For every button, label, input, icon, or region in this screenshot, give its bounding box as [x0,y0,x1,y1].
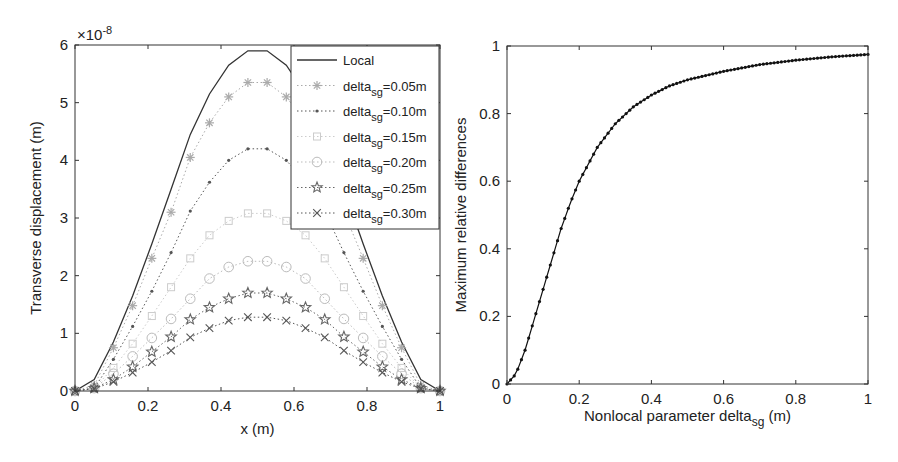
x-axis-label-main: Nonlocal parameter delta [584,407,752,424]
dot-marker-icon [592,153,595,156]
dot-marker-icon [606,132,609,135]
dot-marker-icon [798,58,801,61]
dot-marker-icon [773,61,776,64]
dot-marker-icon [783,60,786,63]
y-tick-label: 0.2 [479,307,500,324]
y-tick-label: 0.4 [479,240,500,257]
dot-marker-icon [635,103,638,106]
dot-marker-icon [661,88,664,91]
y-tick-label: 6 [60,36,68,53]
dot-marker-icon [852,54,855,57]
legend-label-main: delta [343,130,372,145]
dot-marker-icon [848,54,851,57]
square-marker-icon [302,232,309,239]
dot-marker-icon [588,159,591,162]
dot-marker-icon [700,75,703,78]
star-marker-icon [262,288,272,298]
dot-marker-icon [265,147,268,150]
dot-marker-icon [708,73,711,76]
circle-marker-icon [339,314,349,324]
circle-marker-icon [147,333,157,343]
dot-marker-icon [189,209,192,212]
dot-marker-icon [794,59,797,62]
dot-marker-icon [809,57,812,60]
x-tick-label: 0.8 [785,390,806,407]
square-marker-icon [360,313,367,320]
star-marker-icon [243,288,253,298]
square-marker-icon [206,232,213,239]
y-tick-label: 0.6 [479,172,500,189]
dot-marker-icon [650,93,653,96]
y-tick-label: 0 [60,382,68,399]
dot-marker-icon [625,112,628,115]
dot-marker-icon [856,54,859,57]
circle-marker-icon [358,333,368,343]
dot-marker-icon [704,74,707,77]
dot-marker-icon [715,71,718,74]
dot-marker-icon [801,58,804,61]
dot-marker-icon [534,312,537,315]
legend-label-suffix: =0.25m [383,181,427,196]
square-marker-icon [168,284,175,291]
dot-marker-icon [610,127,613,130]
x-tick-label: 0.6 [284,397,305,414]
dot-marker-icon [690,77,693,80]
dot-marker-icon [729,68,732,71]
circle-marker-icon [301,274,311,284]
dot-marker-icon [523,349,526,352]
legend-label-main: delta [343,104,372,119]
dot-marker-icon [574,188,577,191]
legend-label-sub: sg [371,188,383,200]
dot-marker-icon [513,374,516,377]
x-tick-label: 1 [864,390,872,407]
square-marker-icon [110,364,117,371]
dot-marker-icon [362,290,365,293]
circle-marker-icon [205,274,215,284]
x-tick-label: 0 [71,397,79,414]
dot-marker-icon [664,86,667,89]
square-marker-icon [225,217,232,224]
dot-marker-icon [776,61,779,64]
dot-marker-icon [841,55,844,58]
dot-marker-icon [682,79,685,82]
x-tick-label: 0.2 [569,390,590,407]
y-tick-label: 0 [492,375,500,392]
dot-marker-icon [722,70,725,73]
x-tick-label: 0.4 [211,397,232,414]
legend-label-0: Local [343,53,374,68]
y-tick-label: 0.8 [479,105,500,122]
dot-marker-icon [570,197,573,200]
dot-marker-icon [246,147,249,150]
legend-label-main: delta [343,181,372,196]
dot-marker-icon [686,78,689,81]
y-tick-label: 1 [60,324,68,341]
dot-marker-icon [819,56,822,59]
circle-marker-icon [166,314,176,324]
dot-marker-icon [603,136,606,139]
x-axis-label-sub: sg [752,415,765,429]
dot-marker-icon [812,57,815,60]
x-axis-label-suffix: (m) [764,407,791,424]
dot-marker-icon [830,55,833,58]
dot-marker-icon [671,83,674,86]
dot-marker-icon [549,263,552,266]
dot-marker-icon [816,57,819,60]
dot-marker-icon [668,84,671,87]
dot-marker-icon [585,166,588,169]
dot-marker-icon [520,358,523,361]
dot-marker-icon [827,56,830,59]
y-tick-label: 4 [60,151,68,168]
dot-marker-icon [838,55,841,58]
dot-marker-icon [711,72,714,75]
legend-label-main: delta [343,79,372,94]
legend-label-sub: sg [371,162,383,174]
dot-marker-icon [791,59,794,62]
dot-marker-icon [787,59,790,62]
axes-box [507,46,868,384]
dot-marker-icon [632,105,635,108]
square-marker-icon [283,217,290,224]
dot-marker-icon [538,300,541,303]
dot-marker-icon [169,251,172,254]
dot-marker-icon [617,119,620,122]
square-marker-icon [321,255,328,262]
